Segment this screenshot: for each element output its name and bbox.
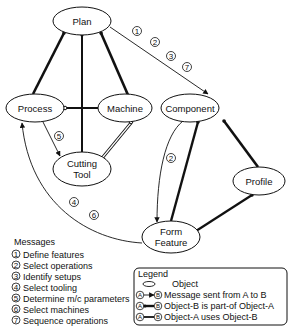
legend-title: Legend <box>138 269 168 279</box>
svg-text:Define features: Define features <box>23 250 85 260</box>
node-machine: Machine <box>98 94 152 122</box>
link-component-form-feature <box>171 122 198 221</box>
node-component: Component <box>161 94 219 122</box>
node-plan: Plan <box>53 7 111 35</box>
legend: Legend Object A B Message sent from A to… <box>134 268 287 325</box>
svg-text:5: 5 <box>57 132 62 141</box>
svg-text:Select tooling: Select tooling <box>23 283 77 293</box>
svg-text:Sequence operations: Sequence operations <box>23 316 109 326</box>
messages-title: Messages <box>14 237 56 247</box>
svg-text:Feature: Feature <box>155 237 188 248</box>
svg-text:6: 6 <box>92 211 97 220</box>
svg-text:7: 7 <box>185 63 190 72</box>
svg-text:A: A <box>138 303 142 309</box>
svg-text:B: B <box>156 303 160 309</box>
message-item: 1 Define features <box>12 250 85 260</box>
legend-item-part-of: A B Object-B is part-of Object-A <box>136 301 274 311</box>
svg-text:Tool: Tool <box>73 169 90 180</box>
svg-text:Message sent from A to B: Message sent from A to B <box>164 290 267 300</box>
link-plan-machine <box>101 33 128 95</box>
message-item: 2 Select operations <box>12 261 93 271</box>
svg-text:Cutting: Cutting <box>67 158 97 169</box>
part-of-links <box>33 31 258 231</box>
message-plan-to-component <box>110 27 208 94</box>
message-item: 5 Determine m/c parameters <box>12 294 130 304</box>
message-item: 3 Identify setups <box>12 272 82 282</box>
node-form-feature: Form Feature <box>142 221 200 253</box>
svg-text:Process: Process <box>18 103 53 114</box>
svg-text:7: 7 <box>14 316 19 325</box>
svg-text:Form: Form <box>160 226 182 237</box>
link-plan-process <box>33 33 64 94</box>
svg-text:1: 1 <box>14 250 19 259</box>
ellipse-icon <box>143 282 155 287</box>
node-cutting-tool: Cutting Tool <box>53 152 111 186</box>
node-profile: Profile <box>233 167 285 195</box>
svg-text:A: A <box>138 314 142 320</box>
svg-text:Object-B is part-of Object-A: Object-B is part-of Object-A <box>164 301 274 311</box>
message-item: 7 Sequence operations <box>12 316 109 326</box>
svg-text:2: 2 <box>169 154 174 163</box>
legend-item-message: A B Message sent from A to B <box>136 290 266 300</box>
svg-text:3: 3 <box>169 52 174 61</box>
svg-text:6: 6 <box>14 305 19 314</box>
svg-text:Object: Object <box>172 279 199 289</box>
link-form-feature-profile <box>196 195 252 231</box>
message-component-to-form-feature <box>157 121 183 222</box>
svg-text:Plan: Plan <box>72 16 91 27</box>
messages-list: Messages 1 Define features 2 Select oper… <box>12 237 130 326</box>
svg-text:B: B <box>156 314 160 320</box>
message-item: 4 Select tooling <box>12 283 77 293</box>
svg-text:Select machines: Select machines <box>23 305 90 315</box>
svg-text:B: B <box>156 292 160 298</box>
svg-text:1: 1 <box>135 27 140 36</box>
svg-text:Object-A uses Object-B: Object-A uses Object-B <box>164 312 258 322</box>
svg-text:3: 3 <box>14 272 19 281</box>
message-badges: 1 2 3 7 5 2 4 6 <box>55 27 192 220</box>
svg-text:4: 4 <box>14 283 19 292</box>
svg-text:5: 5 <box>14 294 19 303</box>
svg-text:Determine m/c parameters: Determine m/c parameters <box>23 294 130 304</box>
node-process: Process <box>6 94 64 122</box>
svg-text:Select operations: Select operations <box>23 261 93 271</box>
svg-text:Profile: Profile <box>246 176 273 187</box>
svg-text:4: 4 <box>72 198 77 207</box>
svg-text:2: 2 <box>14 261 19 270</box>
svg-text:Machine: Machine <box>107 103 143 114</box>
svg-text:A: A <box>138 292 142 298</box>
svg-text:2: 2 <box>153 38 158 47</box>
svg-text:Component: Component <box>165 103 214 114</box>
object-diagram: 1 2 3 7 5 2 4 6 Plan Process Machine Cut… <box>0 0 298 329</box>
message-item: 6 Select machines <box>12 305 90 315</box>
link-component-profile <box>224 121 258 167</box>
svg-text:Identify setups: Identify setups <box>23 272 82 282</box>
